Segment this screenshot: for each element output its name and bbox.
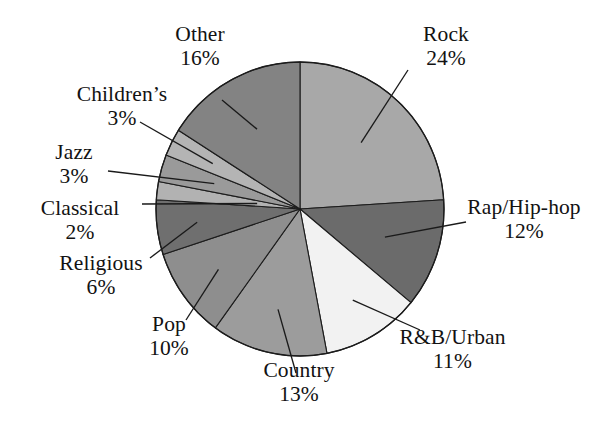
slice-label-classical-name: Classical [26, 196, 134, 220]
slice-label-religious: Religious 6% [46, 251, 156, 300]
slice-label-jazz-name: Jazz [38, 140, 110, 164]
slice-label-jazz-pct: 3% [38, 164, 110, 188]
slice-label-rap-hip-hop: Rap/Hip-hop 12% [449, 195, 599, 244]
slice-label-country-name: Country [243, 358, 355, 382]
leader-line-classical [142, 203, 257, 204]
slice-label-rnb-urban-name: R&B/Urban [380, 325, 525, 349]
slice-label-religious-pct: 6% [46, 275, 156, 299]
slice-label-other: Other 16% [152, 22, 248, 71]
slice-label-other-pct: 16% [152, 46, 248, 70]
slice-label-country-pct: 13% [243, 382, 355, 406]
slice-label-rap-hip-hop-pct: 12% [449, 219, 599, 243]
slice-label-rnb-urban-pct: 11% [380, 349, 525, 373]
pie-chart: Rock 24% Rap/Hip-hop 12% R&B/Urban 11% C… [0, 0, 599, 442]
slice-label-pop-pct: 10% [132, 336, 206, 360]
pie-slice-rock [300, 62, 444, 209]
slice-label-religious-name: Religious [46, 251, 156, 275]
slice-label-pop: Pop 10% [132, 312, 206, 361]
slice-label-rock: Rock 24% [398, 22, 494, 71]
slice-label-pop-name: Pop [132, 312, 206, 336]
slice-label-rock-pct: 24% [398, 46, 494, 70]
slice-label-other-name: Other [152, 22, 248, 46]
slice-label-country: Country 13% [243, 358, 355, 407]
slice-label-classical: Classical 2% [26, 196, 134, 245]
slice-label-jazz: Jazz 3% [38, 140, 110, 189]
slice-label-classical-pct: 2% [26, 220, 134, 244]
slice-label-rap-hip-hop-name: Rap/Hip-hop [449, 195, 599, 219]
slice-label-childrens: Children’s 3% [58, 82, 186, 131]
slice-label-rnb-urban: R&B/Urban 11% [380, 325, 525, 374]
slice-label-childrens-name: Children’s [58, 82, 186, 106]
slice-label-rock-name: Rock [398, 22, 494, 46]
slice-label-childrens-pct: 3% [58, 106, 186, 130]
